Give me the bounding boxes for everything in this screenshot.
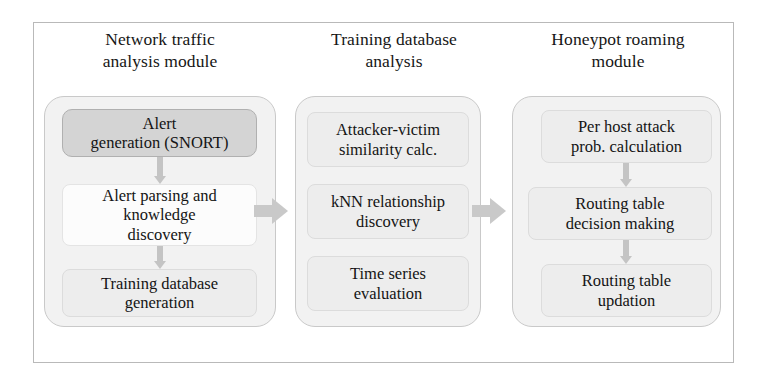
step-box-per-host-attack-prob-calculation: Per host attack prob. calculation <box>541 110 712 163</box>
arrow-module2-to-module3 <box>472 198 506 224</box>
step-box-attacker-victim-similarity-calc: Attacker-victim similarity calc. <box>307 112 469 167</box>
module-title-honeypot-roaming: Honeypot roaming module <box>516 28 720 73</box>
step-box-training-database-generation: Training database generation <box>62 269 257 317</box>
arrow-shaft <box>254 205 274 217</box>
step-box-alert-parsing-knowledge-discovery: Alert parsing and knowledge discovery <box>62 184 257 246</box>
arrow-module1-to-module2 <box>254 198 288 224</box>
step-box-routing-table-decision-making: Routing table decision making <box>528 187 712 240</box>
step-box-alert-generation-snort: Alert generation (SNORT) <box>62 109 257 157</box>
block-diagram: Network traffic analysis module Alert ge… <box>0 0 760 387</box>
module-title-network-traffic: Network traffic analysis module <box>48 28 272 73</box>
step-box-routing-table-updation: Routing table updation <box>541 264 712 317</box>
arrow-routing-decision-to-routing-updation <box>620 240 632 264</box>
module-column-network-traffic: Network traffic analysis module <box>48 28 272 73</box>
arrow-alert-generation-to-alert-parsing <box>154 157 166 184</box>
step-box-time-series-evaluation: Time series evaluation <box>307 256 469 311</box>
module-column-training-database-analysis: Training database analysis <box>296 28 492 73</box>
arrow-head <box>490 198 506 224</box>
module-column-honeypot-roaming: Honeypot roaming module <box>516 28 720 73</box>
arrow-shaft <box>472 205 492 217</box>
module-title-training-database-analysis: Training database analysis <box>296 28 492 73</box>
arrow-per-host-prob-to-routing-decision <box>620 163 632 187</box>
arrow-alert-parsing-to-training-db-generation <box>154 246 166 269</box>
arrow-head <box>272 198 288 224</box>
step-box-knn-relationship-discovery: kNN relationship discovery <box>307 184 469 239</box>
